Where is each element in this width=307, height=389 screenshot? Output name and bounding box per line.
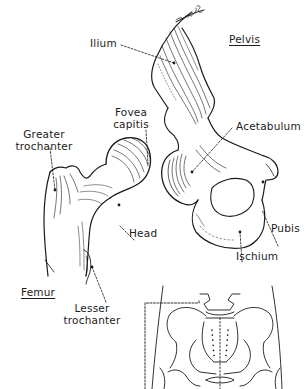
greater-trochanter-label-line1: Greater: [4, 128, 84, 140]
ilium-label: Ilium: [90, 37, 117, 49]
pubis-label: Pubis: [271, 222, 300, 234]
pelvis-title: Pelvis: [229, 33, 260, 45]
lesser-trochanter-label-line1: Lesser: [62, 302, 122, 314]
ischium-label: Ischium: [236, 250, 278, 262]
ilium-bone: [152, 6, 215, 124]
lesser-trochanter-label-line2: trochanter: [62, 314, 122, 326]
hip-anatomy-drawing: [0, 0, 307, 389]
head-label: Head: [129, 227, 157, 239]
acetabulum-label: Acetabulum: [236, 120, 301, 132]
lesser-trochanter-label: Lesser trochanter: [62, 302, 122, 326]
fovea-capitis-label-line1: Fovea: [106, 106, 156, 118]
femur-bone: [44, 138, 151, 284]
femur-title: Femur: [21, 286, 55, 298]
inset-pelvis-front-view: [145, 286, 282, 389]
fovea-capitis-label: Fovea capitis: [106, 106, 156, 130]
greater-trochanter-label: Greater trochanter: [4, 128, 84, 152]
fovea-capitis-label-line2: capitis: [106, 118, 156, 130]
greater-trochanter-label-line2: trochanter: [4, 140, 84, 152]
